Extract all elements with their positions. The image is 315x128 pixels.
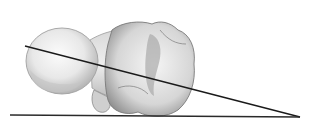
femur-illustration <box>0 0 315 128</box>
